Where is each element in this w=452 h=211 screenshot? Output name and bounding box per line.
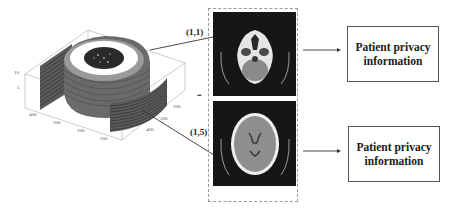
ct-skull-base-graphic <box>213 12 296 96</box>
ellipsis-dots: ... <box>197 88 201 98</box>
info-box-2-line2: information <box>356 154 431 168</box>
info-box-1-line1: Patient privacy <box>355 40 430 54</box>
slice-label-1-1: (1,1) <box>186 27 203 37</box>
arrow-head-1 <box>337 48 341 52</box>
patient-privacy-info-box-1: Patient privacy information <box>347 26 439 82</box>
info-box-1-line2: information <box>355 54 430 68</box>
ct-slice-1-5 <box>213 101 296 186</box>
info-box-2-line1: Patient privacy <box>356 140 431 154</box>
connector-line-1-1 <box>150 37 213 50</box>
patient-privacy-info-box-2: Patient privacy information <box>348 126 440 182</box>
slice-label-1-5: (1,5) <box>190 127 207 137</box>
arrow-head-2 <box>337 149 341 153</box>
ct-brain-ventricles-graphic <box>213 101 296 186</box>
ct-slice-1-1 <box>213 12 296 96</box>
